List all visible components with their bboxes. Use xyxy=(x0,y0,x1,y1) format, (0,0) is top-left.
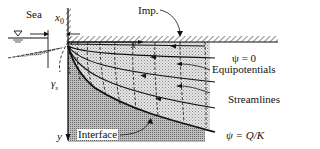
impermeable-label: Imp. xyxy=(138,5,158,16)
sea-label: Sea xyxy=(26,9,42,20)
x0-label: x0 xyxy=(55,12,64,26)
psi-qk-label: ψ = Q/K xyxy=(226,130,264,141)
impermeable-boundary xyxy=(66,8,278,44)
gamma-subscript: s xyxy=(55,84,58,92)
streamlines-label: Streamlines xyxy=(228,94,280,105)
equipotentials-label: Equipotentials xyxy=(212,64,276,75)
gamma-s-label: γs xyxy=(50,78,59,92)
y-axis-label: y xyxy=(56,131,63,142)
x-axis-label: x xyxy=(131,39,136,50)
interface-label: Interface xyxy=(77,129,118,140)
x0-subscript: 0 xyxy=(60,17,64,26)
